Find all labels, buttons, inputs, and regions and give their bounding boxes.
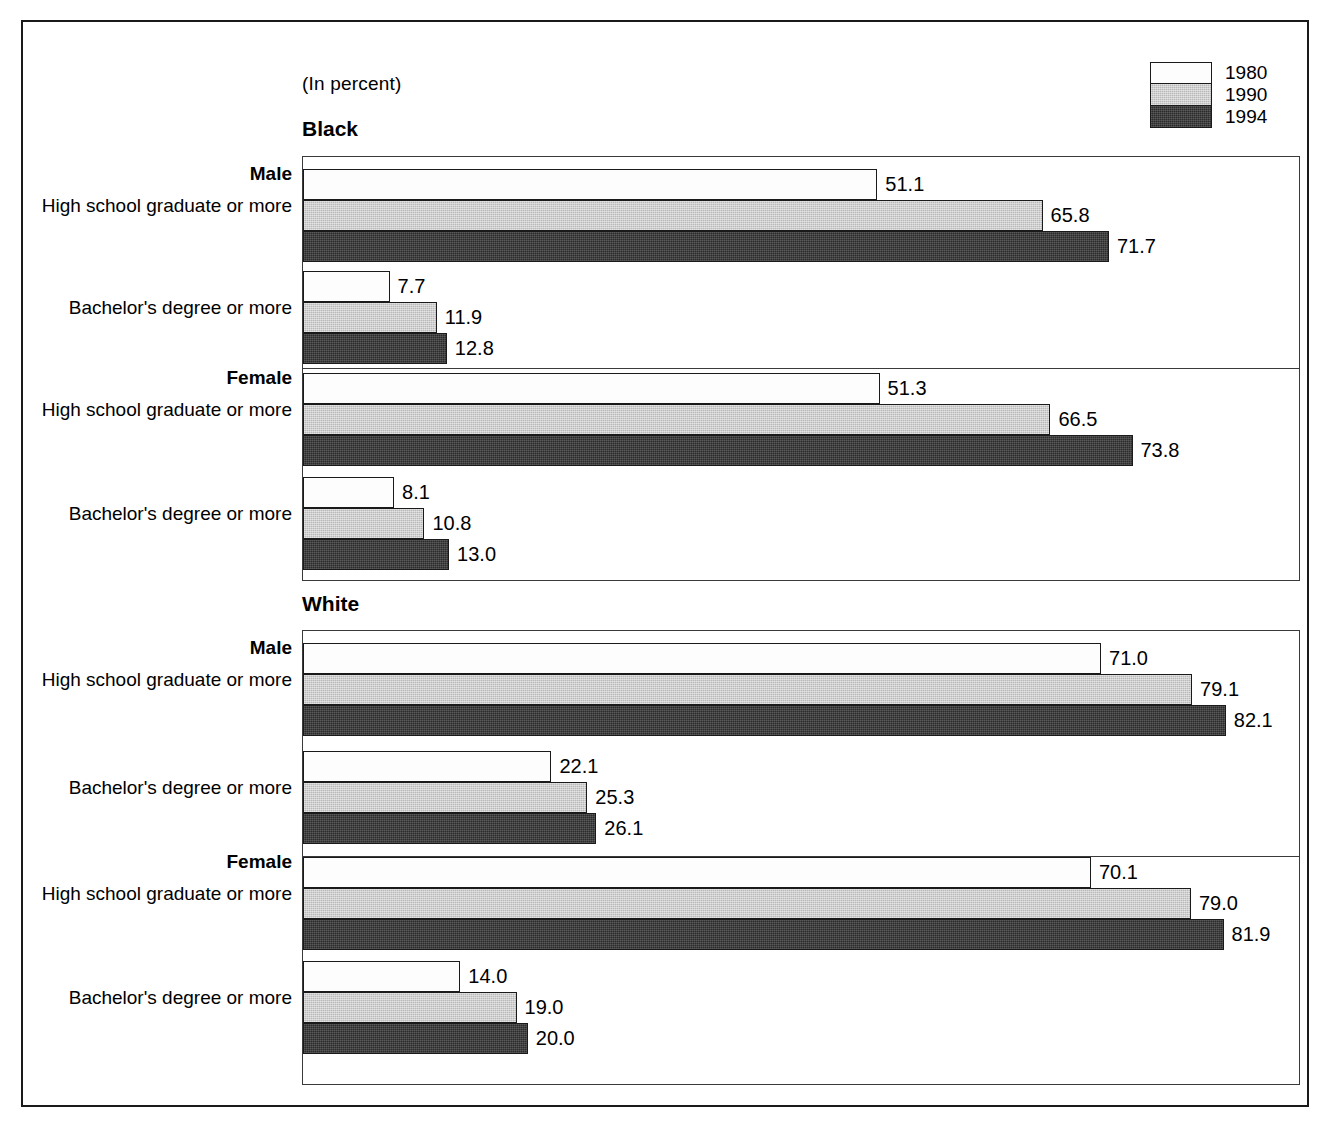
light-gray-swatch-icon	[1150, 84, 1212, 106]
section-title-white: White	[302, 592, 359, 616]
attainment-label: Bachelor's degree or more	[17, 987, 302, 1009]
bar-1994	[303, 919, 1224, 950]
panel-divider	[303, 368, 1299, 369]
attainment-label: High school graduate or more	[17, 883, 302, 905]
sex-label-male: Male	[17, 163, 302, 185]
bar-1990	[303, 674, 1192, 705]
sex-label-female: Female	[17, 367, 302, 389]
bar-value-label: 66.5	[1058, 404, 1097, 435]
bar-1980	[303, 857, 1091, 888]
bar-value-label: 79.0	[1199, 888, 1238, 919]
attainment-label: Bachelor's degree or more	[17, 503, 302, 525]
bar-value-label: 19.0	[525, 992, 564, 1023]
bar-value-label: 25.3	[595, 782, 634, 813]
bar-value-label: 51.1	[885, 169, 924, 200]
bar-value-label: 12.8	[455, 333, 494, 364]
legend-item-label: 1994	[1225, 106, 1267, 128]
bar-1980	[303, 271, 390, 302]
bar-1994	[303, 705, 1226, 736]
legend-item-label: 1980	[1225, 62, 1267, 84]
bar-value-label: 22.1	[559, 751, 598, 782]
sex-label-female: Female	[17, 851, 302, 873]
legend-item-label: 1990	[1225, 84, 1267, 106]
bar-1994	[303, 333, 447, 364]
attainment-label: High school graduate or more	[17, 195, 302, 217]
legend-item: 1990	[1150, 84, 1310, 106]
bar-1990	[303, 782, 587, 813]
bar-value-label: 8.1	[402, 477, 430, 508]
plot-area-white: 71.079.182.122.125.326.170.179.081.914.0…	[302, 630, 1300, 1085]
bar-1980	[303, 169, 877, 200]
bar-value-label: 51.3	[888, 373, 927, 404]
bar-1994	[303, 435, 1133, 466]
category-labels-layer: MaleHigh school graduate or moreBachelor…	[0, 0, 302, 1126]
bar-1980	[303, 477, 394, 508]
attainment-label: Bachelor's degree or more	[17, 777, 302, 799]
bar-1990	[303, 888, 1191, 919]
bar-1980	[303, 751, 551, 782]
attainment-label: High school graduate or more	[17, 399, 302, 421]
bar-1990	[303, 508, 424, 539]
bar-1990	[303, 200, 1043, 231]
bar-1994	[303, 813, 596, 844]
bar-value-label: 14.0	[468, 961, 507, 992]
bar-value-label: 70.1	[1099, 857, 1138, 888]
units-note: (In percent)	[302, 73, 402, 95]
bar-value-label: 82.1	[1234, 705, 1273, 736]
bar-1990	[303, 404, 1050, 435]
bar-1980	[303, 373, 880, 404]
attainment-label: Bachelor's degree or more	[17, 297, 302, 319]
bar-value-label: 65.8	[1051, 200, 1090, 231]
legend-item: 1994	[1150, 106, 1310, 128]
bar-1980	[303, 961, 460, 992]
bar-value-label: 10.8	[432, 508, 471, 539]
sex-label-male: Male	[17, 637, 302, 659]
bar-value-label: 13.0	[457, 539, 496, 570]
bar-value-label: 73.8	[1141, 435, 1180, 466]
bar-value-label: 79.1	[1200, 674, 1239, 705]
bar-value-label: 81.9	[1232, 919, 1271, 950]
bar-1994	[303, 231, 1109, 262]
bar-1994	[303, 1023, 528, 1054]
bar-1980	[303, 643, 1101, 674]
legend-item: 1980	[1150, 62, 1310, 84]
attainment-label: High school graduate or more	[17, 669, 302, 691]
bar-value-label: 11.9	[445, 302, 482, 333]
bar-value-label: 26.1	[604, 813, 643, 844]
dark-gray-swatch-icon	[1150, 106, 1212, 128]
section-title-black: Black	[302, 117, 358, 141]
chart-legend: 1980 1990 1994	[1150, 62, 1310, 128]
bar-1994	[303, 539, 449, 570]
white-swatch-icon	[1150, 62, 1212, 84]
bar-value-label: 71.7	[1117, 231, 1156, 262]
bar-1990	[303, 992, 517, 1023]
bar-1990	[303, 302, 437, 333]
bar-value-label: 20.0	[536, 1023, 575, 1054]
plot-area-black: 51.165.871.77.711.912.851.366.573.88.110…	[302, 156, 1300, 581]
bar-value-label: 7.7	[398, 271, 426, 302]
bar-value-label: 71.0	[1109, 643, 1148, 674]
